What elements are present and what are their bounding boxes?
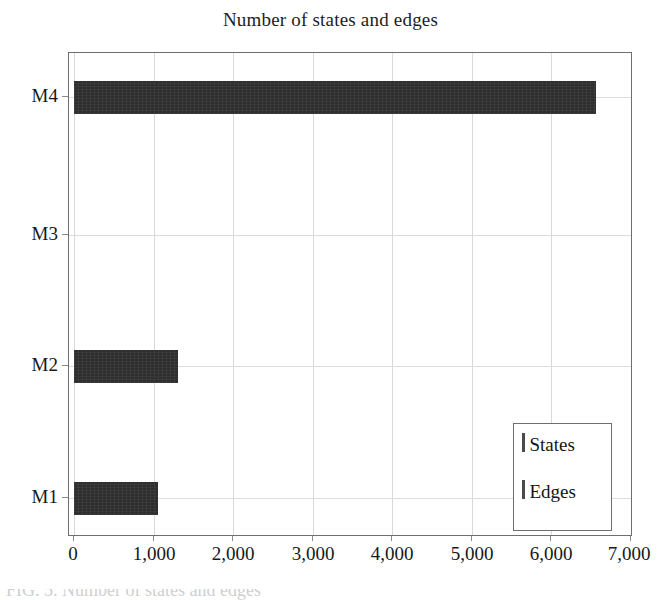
gridline-y-m3 [69,235,631,236]
gridline-x-1000 [154,53,155,535]
gridline-x-3000 [313,53,314,535]
x-tick-mark-6000 [550,536,551,541]
gridline-x-0 [74,53,75,535]
y-axis-label-m3: M3 [0,223,58,245]
chart-title: Number of states and edges [0,9,661,31]
figure-container: Number of states and edges M4 M3 M2 M1 [0,0,661,600]
legend-swatch-edges-icon [522,480,525,499]
y-axis-label-m1: M1 [0,486,58,508]
bar-m1-edges [74,482,158,515]
chart-legend: States Edges [513,423,612,531]
legend-label-states: States [530,435,575,454]
x-axis-label-1000: 1,000 [133,543,176,565]
x-tick-mark-1000 [153,536,154,541]
x-tick-mark-7000 [630,536,631,541]
gridline-x-5000 [472,53,473,535]
x-axis-label-5000: 5,000 [451,543,494,565]
bar-m4-edges [74,81,596,114]
x-tick-mark-0 [73,536,74,541]
x-axis-label-3000: 3,000 [292,543,335,565]
y-axis-label-m2: M2 [0,354,58,376]
x-tick-mark-4000 [391,536,392,541]
x-tick-mark-3000 [312,536,313,541]
bar-m2-edges [74,350,178,383]
legend-label-edges: Edges [530,482,576,501]
x-axis-label-0: 0 [68,543,78,565]
y-axis-label-m4: M4 [0,85,58,107]
x-axis-label-4000: 4,000 [371,543,414,565]
x-tick-mark-2000 [232,536,233,541]
x-axis-label-6000: 6,000 [530,543,573,565]
x-axis-label-7000: 7,000 [608,543,651,565]
x-tick-mark-5000 [471,536,472,541]
legend-entry-edges: Edges [522,480,576,501]
gridline-x-4000 [392,53,393,535]
x-axis-label-2000: 2,000 [212,543,255,565]
caption-strip: FIG. 5. Number of states and edges [0,589,661,600]
gridline-x-2000 [233,53,234,535]
figure-caption: FIG. 5. Number of states and edges [6,589,261,600]
legend-entry-states: States [522,433,575,454]
legend-swatch-states-icon [522,433,525,452]
